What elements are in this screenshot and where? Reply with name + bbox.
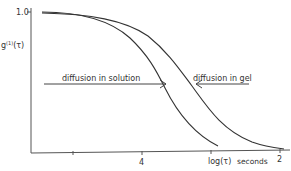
x-tick-label-2: 2	[277, 155, 282, 164]
x-units-label: seconds	[237, 157, 268, 166]
annotation-gel: diffusion in gel	[193, 74, 252, 83]
y-tick-label: 1.0	[16, 8, 29, 17]
x-axis-label: log(τ)	[208, 157, 231, 166]
annotation-solution: diffusion in solution	[62, 74, 140, 83]
chart: 1.0 g(1)(τ) diffusion in solution diffus…	[0, 0, 291, 171]
x-axis	[31, 150, 290, 153]
x-tick-label-4: 4	[139, 158, 144, 167]
y-axis-label: g(1)(τ)	[1, 40, 24, 50]
